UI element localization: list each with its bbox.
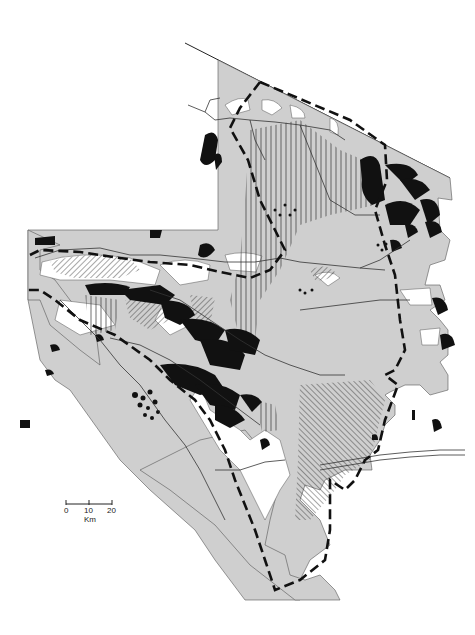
scale-unit: Km (84, 515, 96, 524)
vertical-hatch-area-west (85, 295, 120, 335)
scale-tick-20: 20 (107, 506, 116, 515)
scale-bar: 0 10 20 Km (64, 500, 116, 524)
diagonal-hatch-southeast (295, 380, 385, 520)
thematic-map: 0 10 20 Km (0, 0, 475, 635)
scale-tick-10: 10 (84, 506, 93, 515)
scale-tick-0: 0 (64, 506, 69, 515)
